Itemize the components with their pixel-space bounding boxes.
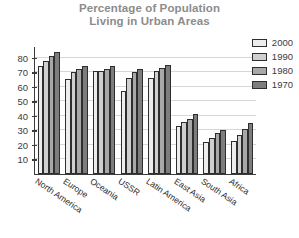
- bar-chart: Percentage of Population Living in Urban…: [0, 0, 299, 238]
- bar-2000-ussr: [121, 91, 127, 174]
- y-axis-tick-mark: [32, 130, 37, 132]
- bar-1980-ussr: [132, 72, 138, 174]
- bar-group: [118, 47, 146, 174]
- bar-1970-oceania: [110, 66, 116, 174]
- y-axis-tick-label: 60: [8, 83, 28, 92]
- bar-group: [173, 47, 201, 174]
- y-axis-tick-mark: [32, 101, 37, 103]
- legend-swatch-icon: [252, 53, 267, 61]
- x-axis-label: Oceania: [89, 176, 121, 202]
- bar-1980-africa: [242, 129, 248, 174]
- y-axis-tick-mark: [32, 87, 37, 89]
- x-axis-labels: North AmericaEuropeOceaniaUSSRLatin Amer…: [34, 176, 256, 236]
- plot-area: [34, 47, 256, 175]
- bar-2000-africa: [231, 141, 237, 174]
- legend-swatch-icon: [252, 67, 267, 75]
- legend-item-1990[interactable]: 1990: [252, 52, 293, 61]
- y-axis-tick-label: 20: [8, 141, 28, 150]
- bar-1980-east-asia: [187, 119, 193, 174]
- y-axis-tick-label: 50: [8, 97, 28, 106]
- bar-group: [146, 47, 174, 174]
- bar-groups: [35, 47, 256, 174]
- chart-title-line-2: Living in Urban Areas: [0, 15, 299, 28]
- y-axis-tick-mark: [32, 145, 37, 147]
- bar-1970-north-america: [54, 52, 60, 174]
- bar-1970-ussr: [137, 69, 143, 174]
- y-axis-tick-label: 70: [8, 68, 28, 77]
- y-axis-tick-label: 10: [8, 155, 28, 164]
- y-axis-tick-label: 40: [8, 112, 28, 121]
- bar-group: [63, 47, 91, 174]
- bar-2000-oceania: [93, 71, 99, 174]
- chart-title-line-1: Percentage of Population: [0, 2, 299, 15]
- legend-label: 2000: [272, 38, 293, 47]
- bar-1980-north-america: [49, 56, 55, 174]
- legend-label: 1990: [272, 52, 293, 61]
- bar-1990-europe: [71, 72, 77, 174]
- bar-1990-latin-america: [154, 71, 160, 174]
- bar-1980-latin-america: [159, 68, 165, 174]
- chart-legend: 2000199019801970: [252, 38, 293, 89]
- legend-item-2000[interactable]: 2000: [252, 38, 293, 47]
- y-axis-tick-mark: [32, 116, 37, 118]
- bar-2000-east-asia: [176, 126, 182, 174]
- legend-label: 1970: [272, 80, 293, 89]
- bar-group: [201, 47, 229, 174]
- bar-1980-south-asia: [215, 133, 221, 174]
- bar-1990-north-america: [43, 61, 49, 174]
- bar-2000-latin-america: [148, 78, 154, 174]
- bar-1980-europe: [76, 69, 82, 174]
- bar-group: [90, 47, 118, 174]
- bar-1970-latin-america: [165, 65, 171, 174]
- bar-1990-south-asia: [209, 138, 215, 174]
- bar-1970-europe: [82, 66, 88, 174]
- legend-swatch-icon: [252, 39, 267, 47]
- x-axis-label: USSR: [117, 176, 142, 198]
- bar-1990-oceania: [98, 71, 104, 174]
- bar-1970-south-asia: [220, 130, 226, 174]
- chart-title: Percentage of Population Living in Urban…: [0, 2, 299, 28]
- legend-item-1980[interactable]: 1980: [252, 66, 293, 75]
- legend-label: 1980: [272, 66, 293, 75]
- bar-1970-east-asia: [193, 114, 199, 174]
- y-axis-tick-mark: [32, 72, 37, 74]
- bar-2000-south-asia: [203, 142, 209, 174]
- y-axis-tick-label: 30: [8, 126, 28, 135]
- bar-2000-europe: [65, 79, 71, 174]
- y-axis-tick-mark: [32, 159, 37, 161]
- bar-2000-north-america: [38, 66, 44, 174]
- bar-1990-east-asia: [181, 122, 187, 174]
- bar-1980-oceania: [104, 69, 110, 174]
- bar-1990-africa: [237, 135, 243, 174]
- bar-1970-africa: [248, 123, 254, 174]
- bar-1990-ussr: [126, 78, 132, 174]
- legend-item-1970[interactable]: 1970: [252, 80, 293, 89]
- bar-group: [35, 47, 63, 174]
- y-axis-tick-label: 80: [8, 54, 28, 63]
- legend-swatch-icon: [252, 81, 267, 89]
- y-axis-tick-mark: [32, 58, 37, 60]
